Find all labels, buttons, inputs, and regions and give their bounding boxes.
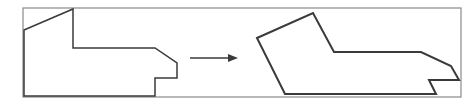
arrow-head bbox=[228, 54, 238, 62]
transformation-diagram bbox=[0, 0, 473, 103]
original-shape bbox=[24, 9, 177, 96]
transformed-shape bbox=[257, 13, 459, 94]
arrow-right-icon bbox=[190, 54, 238, 62]
